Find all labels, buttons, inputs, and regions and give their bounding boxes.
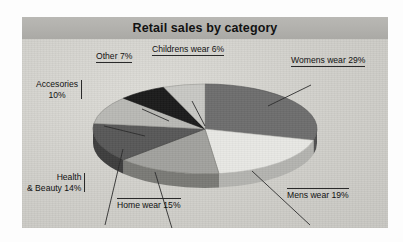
label-womens-wear-rule [291, 66, 365, 67]
label-accesories: Accesories 10% [36, 79, 78, 100]
label-health-beauty-line2: & Beauty 14% [27, 183, 81, 194]
label-womens-wear-text: Womens wear 29% [291, 55, 365, 66]
pie-top-face [93, 84, 317, 174]
label-mens-wear: Mens wear 19% [287, 188, 349, 201]
label-accesories-rule [81, 80, 82, 99]
label-home-wear-text: Home wear 15% [117, 200, 181, 211]
label-health-beauty-rule [84, 173, 85, 192]
label-other-rule [96, 62, 132, 63]
label-childrens-wear-text: Childrens wear 6% [152, 44, 224, 55]
chart-title: Retail sales by category [133, 21, 278, 35]
label-mens-wear-text: Mens wear 19% [287, 190, 349, 201]
label-childrens-wear: Childrens wear 6% [152, 44, 224, 56]
label-home-wear-rule [117, 198, 181, 199]
label-health-beauty: Health & Beauty 14% [27, 172, 81, 193]
label-mens-wear-rule [287, 188, 349, 189]
label-womens-wear: Womens wear 29% [291, 55, 365, 67]
label-other: Other 7% [96, 51, 132, 63]
label-accesories-line1: Accesories [36, 79, 78, 90]
label-home-wear: Home wear 15% [117, 198, 181, 211]
label-childrens-wear-rule [152, 55, 224, 56]
screenshot-root: Retail sales by category [0, 0, 403, 242]
chart-title-banner: Retail sales by category [22, 17, 388, 39]
label-accesories-line2: 10% [36, 90, 78, 101]
label-health-beauty-line1: Health [27, 172, 81, 183]
label-other-text: Other 7% [96, 51, 132, 62]
